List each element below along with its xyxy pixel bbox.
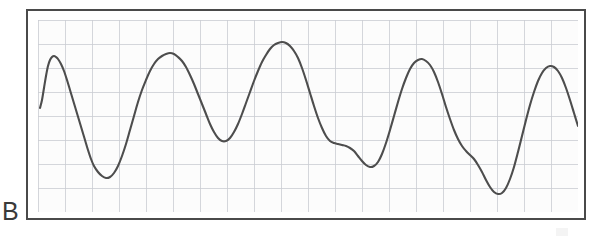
- scan-artifact: [556, 228, 568, 236]
- waveform-trace: [40, 42, 578, 194]
- chart-plot-area: [38, 20, 578, 212]
- figure-root: B: [0, 0, 607, 245]
- waveform-trace-layer: [38, 20, 578, 212]
- panel-label: B: [2, 196, 26, 226]
- plot-frame: [26, 9, 586, 220]
